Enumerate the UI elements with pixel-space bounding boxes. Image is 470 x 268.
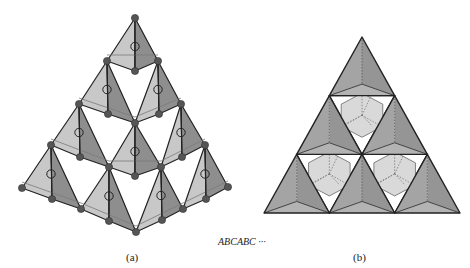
atom-icon bbox=[131, 14, 138, 21]
atom-icon bbox=[177, 100, 184, 107]
atom-icon bbox=[201, 141, 208, 148]
atom-icon bbox=[157, 163, 164, 170]
atom-icon bbox=[178, 153, 185, 160]
atom-icon bbox=[155, 110, 162, 117]
tetrahedron bbox=[109, 123, 161, 176]
upper-layer-tetrahedron bbox=[329, 37, 394, 96]
atom-icon bbox=[105, 163, 112, 170]
atom-icon bbox=[154, 57, 161, 64]
atom-icon bbox=[75, 100, 82, 107]
atom-icon bbox=[47, 141, 54, 148]
atom-icon bbox=[202, 195, 209, 202]
panel-b-caption: (b) bbox=[353, 251, 366, 263]
atom-icon bbox=[132, 228, 139, 235]
atom-icon bbox=[48, 195, 55, 202]
atom-icon bbox=[104, 110, 111, 117]
atom-icon bbox=[76, 153, 83, 160]
atom-icon bbox=[131, 172, 138, 179]
panel-a-caption: (a) bbox=[126, 251, 138, 263]
atom-icon bbox=[18, 184, 25, 191]
atom-icon bbox=[179, 205, 186, 212]
tetrahedral-stacking-diagram bbox=[0, 0, 470, 268]
stacking-sequence-label: ABCABC ··· bbox=[218, 236, 266, 247]
tetrahedron bbox=[107, 18, 158, 71]
atom-icon bbox=[131, 119, 138, 126]
atom-icon bbox=[77, 205, 84, 212]
atom-icon bbox=[103, 57, 110, 64]
panel-b-top-view bbox=[264, 37, 460, 213]
panel-a-pyramid bbox=[18, 14, 231, 235]
atom-icon bbox=[158, 216, 165, 223]
atom-icon bbox=[131, 67, 138, 74]
atom-icon bbox=[224, 183, 231, 190]
atom-icon bbox=[105, 217, 112, 224]
